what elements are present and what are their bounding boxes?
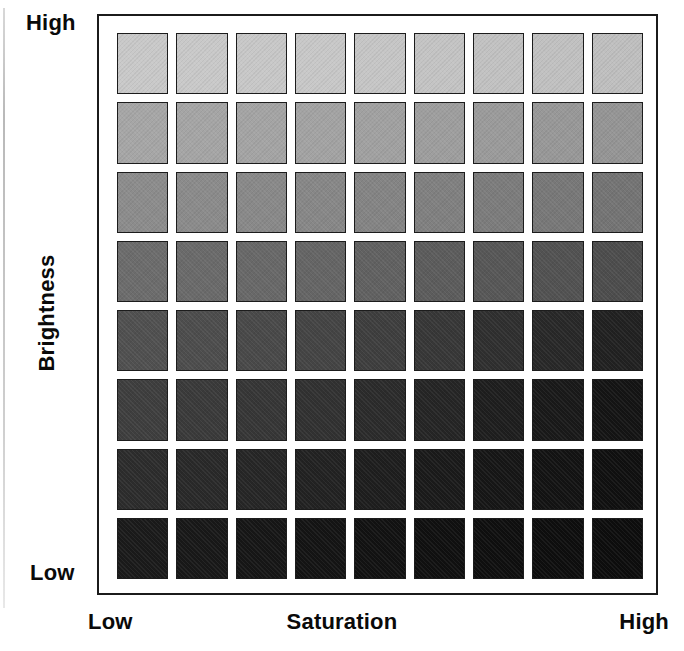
swatch-r2-c7 — [473, 102, 524, 163]
swatch-r3-c1 — [117, 172, 168, 233]
swatch-r3-c4 — [295, 172, 346, 233]
swatch-r8-c4 — [295, 518, 346, 579]
swatch-r4-c7 — [473, 241, 524, 302]
swatch-r3-c2 — [176, 172, 227, 233]
swatch-r1-c3 — [236, 33, 287, 94]
x-axis-title: Saturation — [0, 609, 684, 635]
swatch-r3-c9 — [592, 172, 643, 233]
y-axis-low-label: Low — [30, 560, 75, 586]
swatch-r1-c4 — [295, 33, 346, 94]
swatch-r1-c7 — [473, 33, 524, 94]
swatch-r4-c9 — [592, 241, 643, 302]
x-axis-high-label: High — [619, 609, 669, 635]
swatch-r5-c9 — [592, 310, 643, 371]
swatch-r5-c6 — [414, 310, 465, 371]
swatch-r4-c5 — [354, 241, 405, 302]
swatch-r2-c6 — [414, 102, 465, 163]
swatch-r3-c5 — [354, 172, 405, 233]
swatch-r5-c3 — [236, 310, 287, 371]
y-axis-high-label: High — [26, 10, 76, 36]
swatch-r8-c8 — [532, 518, 583, 579]
swatch-r8-c9 — [592, 518, 643, 579]
swatch-r6-c8 — [532, 379, 583, 440]
swatch-r5-c7 — [473, 310, 524, 371]
swatch-r1-c2 — [176, 33, 227, 94]
swatch-r7-c1 — [117, 449, 168, 510]
swatch-r3-c8 — [532, 172, 583, 233]
chart-frame — [97, 14, 658, 595]
swatch-r5-c5 — [354, 310, 405, 371]
swatch-r2-c2 — [176, 102, 227, 163]
swatch-r7-c3 — [236, 449, 287, 510]
swatch-r2-c9 — [592, 102, 643, 163]
swatch-r5-c4 — [295, 310, 346, 371]
swatch-r4-c4 — [295, 241, 346, 302]
swatch-r3-c6 — [414, 172, 465, 233]
swatch-r8-c7 — [473, 518, 524, 579]
swatch-r2-c5 — [354, 102, 405, 163]
swatch-r5-c8 — [532, 310, 583, 371]
swatch-r6-c1 — [117, 379, 168, 440]
swatch-r1-c8 — [532, 33, 583, 94]
swatch-r6-c4 — [295, 379, 346, 440]
y-axis-title: Brightness — [34, 233, 60, 393]
swatch-r8-c6 — [414, 518, 465, 579]
swatch-r7-c7 — [473, 449, 524, 510]
swatch-r6-c6 — [414, 379, 465, 440]
swatch-r4-c3 — [236, 241, 287, 302]
swatch-r2-c3 — [236, 102, 287, 163]
swatch-r8-c3 — [236, 518, 287, 579]
swatch-grid — [117, 33, 643, 579]
swatch-r1-c6 — [414, 33, 465, 94]
swatch-r3-c7 — [473, 172, 524, 233]
swatch-r6-c9 — [592, 379, 643, 440]
swatch-r4-c6 — [414, 241, 465, 302]
swatch-r5-c1 — [117, 310, 168, 371]
swatch-r6-c7 — [473, 379, 524, 440]
swatch-r4-c1 — [117, 241, 168, 302]
swatch-r7-c5 — [354, 449, 405, 510]
swatch-r6-c2 — [176, 379, 227, 440]
swatch-r6-c3 — [236, 379, 287, 440]
swatch-r4-c2 — [176, 241, 227, 302]
swatch-r8-c5 — [354, 518, 405, 579]
swatch-r2-c4 — [295, 102, 346, 163]
swatch-r2-c1 — [117, 102, 168, 163]
swatch-r7-c6 — [414, 449, 465, 510]
swatch-r7-c9 — [592, 449, 643, 510]
page-scan-edge-artifact — [3, 8, 5, 608]
swatch-r4-c8 — [532, 241, 583, 302]
swatch-r7-c2 — [176, 449, 227, 510]
swatch-r6-c5 — [354, 379, 405, 440]
swatch-r7-c8 — [532, 449, 583, 510]
swatch-r8-c2 — [176, 518, 227, 579]
swatch-r5-c2 — [176, 310, 227, 371]
swatch-r1-c5 — [354, 33, 405, 94]
swatch-r2-c8 — [532, 102, 583, 163]
swatch-r7-c4 — [295, 449, 346, 510]
swatch-r3-c3 — [236, 172, 287, 233]
swatch-r1-c1 — [117, 33, 168, 94]
swatch-r8-c1 — [117, 518, 168, 579]
swatch-r1-c9 — [592, 33, 643, 94]
